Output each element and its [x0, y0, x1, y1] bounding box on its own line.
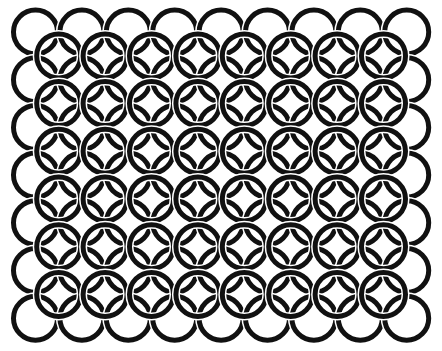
interlocking-circles-pattern	[0, 0, 442, 351]
